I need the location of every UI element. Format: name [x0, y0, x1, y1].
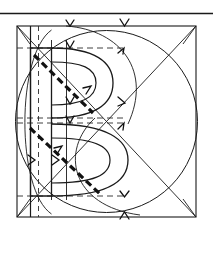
construction-diagram-figure: Geometric construction of the letter B C…	[0, 0, 213, 271]
geometric-construction-svg	[0, 0, 213, 271]
page-background	[0, 0, 213, 271]
